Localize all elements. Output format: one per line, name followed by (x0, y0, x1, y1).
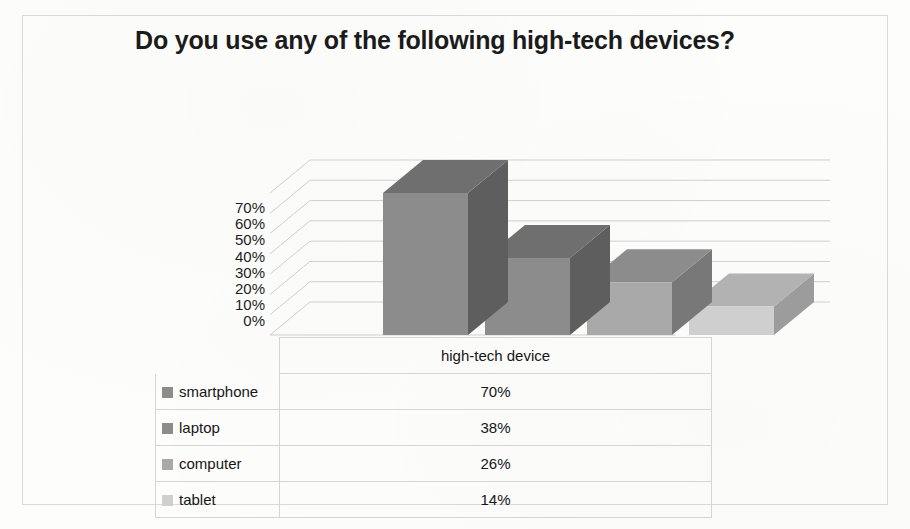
legend-cell-smartphone: smartphone (156, 374, 280, 410)
data-table: high-tech device smartphone70%laptop38%c… (155, 337, 712, 518)
legend-cell-laptop: laptop (156, 410, 280, 446)
table-row: computer26% (156, 446, 712, 482)
legend-label: laptop (179, 419, 220, 436)
legend-swatch-icon (162, 423, 173, 434)
value-cell-computer: 26% (280, 446, 712, 482)
table-row: laptop38% (156, 410, 712, 446)
bar-front-face (689, 307, 774, 335)
grid-connector (270, 180, 310, 213)
grid-connector (270, 160, 310, 193)
bar-chart-3d (150, 140, 830, 350)
legend-label: tablet (179, 491, 216, 508)
plot-area (150, 140, 830, 350)
table-row: tablet14% (156, 482, 712, 518)
legend-swatch-icon (162, 495, 173, 506)
grid-connector (270, 282, 310, 315)
legend-swatch-icon (162, 387, 173, 398)
legend-cell-computer: computer (156, 446, 280, 482)
legend-header-cell (156, 338, 280, 374)
grid-connector (270, 302, 310, 335)
legend-cell-tablet: tablet (156, 482, 280, 518)
legend-swatch-icon (162, 459, 173, 470)
table-row: smartphone70% (156, 374, 712, 410)
chart-title: Do you use any of the following high-tec… (60, 24, 810, 57)
value-cell-laptop: 38% (280, 410, 712, 446)
series-header: high-tech device (280, 338, 712, 374)
bar-front-face (383, 193, 468, 335)
value-cell-tablet: 14% (280, 482, 712, 518)
bar-smartphone (383, 160, 508, 335)
legend-label: computer (179, 455, 242, 472)
value-cell-smartphone: 70% (280, 374, 712, 410)
grid-connector (270, 261, 310, 294)
grid-connector (270, 201, 310, 234)
grid-connector (270, 241, 310, 274)
grid-connector (270, 221, 310, 254)
table-header-row: high-tech device (156, 338, 712, 374)
legend-label: smartphone (179, 383, 258, 400)
